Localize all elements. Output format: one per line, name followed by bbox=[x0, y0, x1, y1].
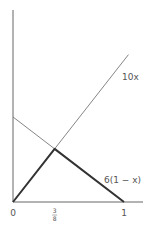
series-label-6-one-minus-x: 6(1 − x) bbox=[104, 175, 141, 185]
x-tick-label: 1 bbox=[121, 208, 127, 218]
x-tick-label-denominator: 8 bbox=[53, 215, 57, 222]
x-tick-label-numerator: 3 bbox=[53, 207, 57, 214]
x-tick-label: 0 bbox=[10, 208, 16, 218]
chart: 0381 10x 6(1 − x) bbox=[0, 0, 150, 231]
series-label-10x: 10x bbox=[122, 72, 139, 82]
